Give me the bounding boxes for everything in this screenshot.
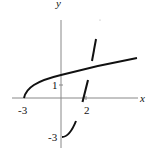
sqrt-curve [24, 58, 137, 98]
x-tick-label-neg3: -3 [18, 104, 28, 116]
lower-segment [83, 80, 89, 102]
x-tick-label-2: 2 [84, 104, 90, 116]
upper-segment [92, 39, 96, 61]
graph: y x -3 2 1 -3 [0, 0, 153, 156]
y-axis-label: y [55, 0, 61, 9]
x-axis-label: x [139, 92, 145, 104]
y-tick-label-1: 1 [52, 79, 58, 91]
y-tick-label-neg3: -3 [48, 131, 58, 143]
lower-curve [62, 121, 76, 137]
stray-dot [99, 19, 100, 20]
